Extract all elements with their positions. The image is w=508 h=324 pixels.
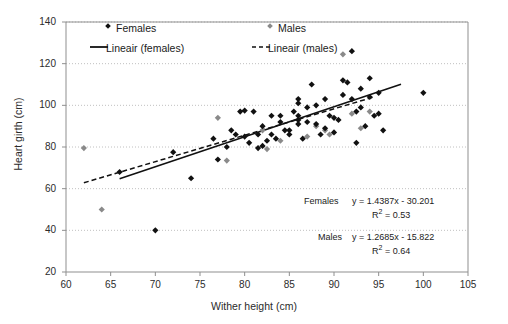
x-axis-tick-label: 100 [408,279,438,290]
y-axis-tick-label: 100 [26,99,56,110]
x-axis-tick-label: 70 [140,279,170,290]
legend-label-linear-males: Lineair (males) [268,42,337,54]
annotation-females-group: Females [304,196,339,206]
annotation-males-group: Males [318,232,342,242]
legend-label-females: Females [116,22,156,34]
plot-canvas [0,0,508,324]
x-axis-tick-label: 90 [319,279,349,290]
y-axis-tick-label: 60 [26,183,56,194]
x-axis-tick-label: 65 [96,279,126,290]
legend-label-linear-females: Lineair (females) [106,42,184,54]
x-axis-tick-label: 105 [453,279,483,290]
y-axis-tick-label: 80 [26,141,56,152]
y-axis-tick-label: 40 [26,224,56,235]
x-axis-tick-label: 60 [51,279,81,290]
y-axis-tick-label: 140 [26,16,56,27]
x-axis-tick-label: 85 [274,279,304,290]
y-axis-title: Heart girth (cm) [12,79,24,189]
y-axis-tick-label: 120 [26,58,56,69]
scatter-chart: Heart girth (cm) Wither height (cm) 1401… [0,0,508,324]
annotation-males-r2-value: = 0.64 [382,246,410,256]
x-axis-tick-label: 95 [364,279,394,290]
annotation-females-r2-value: = 0.53 [382,210,410,220]
annotation-males-r2: R2 = 0.64 [372,244,410,256]
annotation-females-equation: y = 1.4387x - 30.201 [352,196,434,206]
annotation-females-r2: R2 = 0.53 [372,208,410,220]
x-axis-tick-label: 75 [185,279,215,290]
legend-label-males: Males [278,22,306,34]
annotation-males-equation: y = 1.2685x - 15.822 [352,232,434,242]
y-axis-tick-label: 20 [26,266,56,277]
x-axis-title: Wither height (cm) [0,300,508,312]
x-axis-tick-label: 80 [230,279,260,290]
